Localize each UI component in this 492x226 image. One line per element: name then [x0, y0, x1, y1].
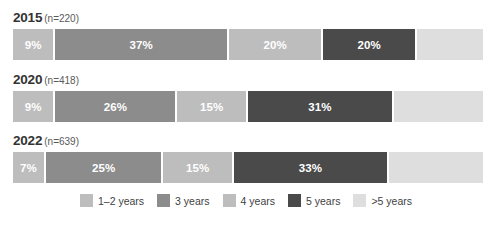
legend-item-label: 5 years — [306, 195, 340, 207]
bar-group-label: 2022(n=639) — [13, 131, 483, 149]
stacked-bar: 9% 37% 20% 20% — [13, 29, 483, 60]
bar-segment[interactable] — [394, 91, 483, 122]
bar-group-sample-size: (n=220) — [44, 13, 79, 24]
legend-item-label: 4 years — [241, 195, 275, 207]
stacked-bar: 9% 26% 15% 31% — [13, 91, 483, 122]
bar-segment-label: 31% — [308, 101, 331, 113]
bar-segment-label: 37% — [130, 39, 153, 51]
legend-item-label: >5 years — [371, 195, 412, 207]
legend-item-label: 1–2 years — [98, 195, 144, 207]
bar-segment[interactable]: 9% — [13, 91, 55, 122]
bar-group-label: 2020(n=418) — [13, 70, 483, 88]
bar-group-sample-size: (n=639) — [44, 136, 79, 147]
bar-segment-label: 20% — [358, 39, 381, 51]
bar-group-2015: 2015(n=220) 9% 37% 20% 20% — [13, 8, 483, 60]
legend-swatch-icon — [353, 194, 366, 207]
bar-segment[interactable]: 31% — [248, 91, 394, 122]
bar-group-2022: 2022(n=639) 7% 25% 15% 33% — [13, 131, 483, 183]
stacked-bar-chart: 2015(n=220) 9% 37% 20% 20% 2020(n=418) 9… — [0, 0, 492, 226]
bar-segment[interactable]: 26% — [55, 91, 177, 122]
bar-segment[interactable] — [417, 29, 483, 60]
bar-group-sample-size: (n=418) — [44, 75, 79, 86]
bar-group-2020: 2020(n=418) 9% 26% 15% 31% — [13, 70, 483, 122]
legend-item[interactable]: 5 years — [288, 194, 340, 207]
bar-segment[interactable]: 20% — [323, 29, 417, 60]
legend-swatch-icon — [80, 194, 93, 207]
legend-item[interactable]: >5 years — [353, 194, 412, 207]
bar-segment[interactable]: 25% — [46, 152, 164, 183]
legend-item[interactable]: 3 years — [157, 194, 209, 207]
bar-segment[interactable]: 20% — [229, 29, 323, 60]
legend-swatch-icon — [288, 194, 301, 207]
bar-segment-label: 15% — [186, 162, 209, 174]
bar-group-year: 2020 — [13, 72, 42, 87]
legend-item[interactable]: 4 years — [223, 194, 275, 207]
bar-group-year: 2022 — [13, 133, 42, 148]
legend-swatch-icon — [223, 194, 236, 207]
bar-segment[interactable]: 33% — [234, 152, 389, 183]
stacked-bar: 7% 25% 15% 33% — [13, 152, 483, 183]
bar-segment-label: 7% — [20, 162, 37, 174]
bar-segment[interactable]: 7% — [13, 152, 46, 183]
bar-segment-label: 25% — [92, 162, 115, 174]
bar-segment-label: 15% — [200, 101, 223, 113]
chart-legend: 1–2 years 3 years 4 years 5 years >5 yea… — [0, 194, 492, 207]
bar-group-year: 2015 — [13, 10, 42, 25]
bar-segment-label: 9% — [25, 101, 42, 113]
bar-segment-label: 20% — [264, 39, 287, 51]
bar-segment[interactable] — [389, 152, 483, 183]
bar-segment-label: 33% — [299, 162, 322, 174]
bar-segment[interactable]: 9% — [13, 29, 55, 60]
bar-segment[interactable]: 37% — [55, 29, 229, 60]
bar-segment[interactable]: 15% — [177, 91, 248, 122]
bar-group-label: 2015(n=220) — [13, 8, 483, 26]
legend-item-label: 3 years — [175, 195, 209, 207]
bar-segment[interactable]: 15% — [163, 152, 234, 183]
legend-item[interactable]: 1–2 years — [80, 194, 144, 207]
bar-segment-label: 9% — [25, 39, 42, 51]
legend-swatch-icon — [157, 194, 170, 207]
bar-segment-label: 26% — [104, 101, 127, 113]
